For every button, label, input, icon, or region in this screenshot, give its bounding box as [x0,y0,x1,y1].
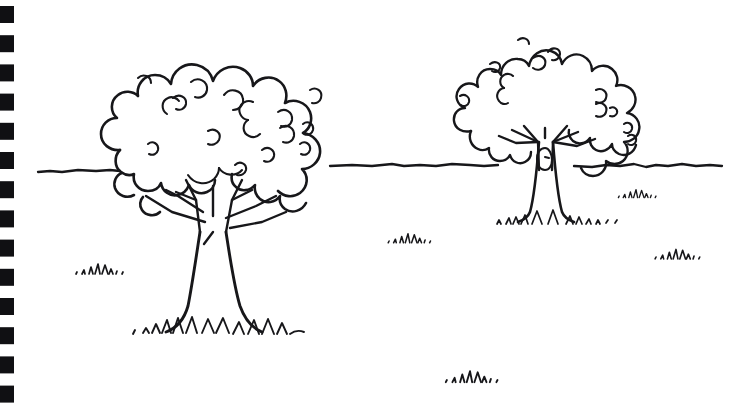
spiral-binding-marks [0,6,14,403]
grass-blade [667,252,671,259]
near-tree [101,64,321,334]
far-tree-base-grass [497,210,617,224]
binding-mark [0,152,14,169]
grass-blade [430,241,431,243]
grass-blade [460,375,464,383]
grass-blade [102,265,108,274]
tuft-right-midground [618,190,656,198]
binding-mark [0,181,14,198]
grass-blade [634,190,638,198]
grass-blade [122,272,123,274]
grass-blade [699,257,700,259]
grass-blade [405,234,410,243]
grass-blade [109,269,113,274]
grass-blade [95,264,100,274]
binding-mark [0,123,14,140]
grass-blade [490,379,491,382]
binding-mark [0,269,14,286]
grass-blade [467,371,473,382]
grass-blade [412,235,417,243]
far-tree-canopy [454,38,639,176]
grass-blade [89,267,93,274]
grass-blade [639,190,644,197]
scattered-grass-tufts [76,190,700,383]
grass-blade [418,238,422,243]
grass-blade [116,271,117,274]
tuft-right-foreground [655,249,700,259]
binding-mark [0,356,14,373]
grass-blade [686,254,690,259]
grass-blade [400,237,404,243]
grass-blade [623,194,625,197]
grass-blade [446,380,447,382]
near-tree-branches [146,180,286,244]
grass-blade [693,256,694,259]
grass-blade [655,196,656,198]
grass-blade [482,377,486,383]
tuft-center-foreground [446,371,498,382]
notebook-page [0,0,742,411]
grass-blade [673,249,678,259]
grass-blade [629,192,632,198]
grass-blade [680,250,686,259]
binding-mark [0,94,14,111]
grass-blade [76,272,77,274]
binding-mark [0,210,14,227]
binding-mark [0,327,14,344]
binding-mark [0,298,14,315]
grass-blade [655,257,656,259]
grass-blade [424,240,425,243]
tuft-center-midground [388,234,430,243]
binding-mark [0,64,14,81]
grass-blade [661,255,664,259]
grass-blade [618,196,619,198]
binding-mark [0,35,14,52]
tuft-left-foreground [76,264,123,274]
grass-blade [474,372,481,382]
near-tree-base-grass [133,317,304,334]
grass-blade [82,270,85,274]
grass-blade [452,378,455,382]
binding-mark [0,240,14,257]
near-tree-trunk [166,232,262,332]
grass-blade [388,241,389,243]
tree-landscape-drawing [0,0,742,411]
binding-mark [0,6,14,23]
grass-blade [645,194,648,198]
grass-blade [650,195,651,197]
far-tree [454,38,639,224]
near-tree-canopy [101,64,321,215]
grass-blade [394,239,397,243]
grass-blade [496,380,497,382]
far-tree-trunk [518,142,574,222]
horizon-line [38,164,722,172]
binding-mark [0,386,14,403]
